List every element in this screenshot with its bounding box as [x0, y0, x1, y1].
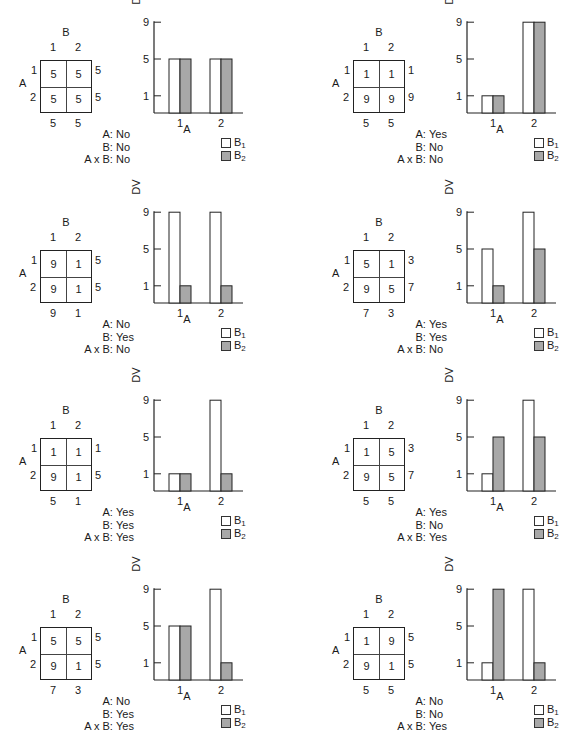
y-axis-label: DV [130, 556, 142, 571]
legend-label-b2: B2 [547, 527, 559, 541]
y-tick-label: 1 [143, 468, 149, 480]
legend-item-b1: B1 [221, 136, 246, 149]
x-tick-label: 2 [218, 307, 224, 319]
bar-a2-b1 [523, 589, 534, 680]
legend-item-b2: B2 [534, 716, 559, 729]
bar-a2-b2 [221, 663, 232, 680]
legend-label-b1: B1 [234, 514, 246, 528]
x-axis-label: A [183, 123, 190, 135]
bar-a1-b2 [493, 589, 504, 680]
legend-label-b2: B2 [234, 527, 246, 541]
x-axis-label: A [183, 690, 190, 702]
y-tick-label: 5 [456, 620, 462, 632]
y-tick-label: 5 [143, 431, 149, 443]
x-tick-label: 2 [531, 684, 537, 696]
bar-a1-b2 [180, 626, 191, 680]
legend-item-b1: B1 [534, 326, 559, 339]
legend-label-b1: B1 [547, 136, 559, 150]
y-axis-label: DV [130, 179, 142, 194]
x-tick-label: 2 [218, 684, 224, 696]
legend-item-b2: B2 [221, 527, 246, 540]
x-tick-label: 2 [218, 117, 224, 129]
y-axis-label: DV [130, 0, 142, 5]
x-tick-label: 2 [531, 307, 537, 319]
legend-item-b1: B1 [534, 514, 559, 527]
bar-a2-b2 [221, 474, 232, 491]
legend-item-b1: B1 [221, 326, 246, 339]
y-tick-label: 1 [143, 90, 149, 102]
x-tick-label: 1 [177, 307, 183, 319]
y-tick-label: 1 [456, 468, 462, 480]
y-tick-label: 9 [456, 206, 462, 218]
y-axis-label: DV [130, 367, 142, 382]
legend: B1 B2 [534, 326, 559, 352]
x-axis-label: A [496, 313, 503, 325]
legend-label-b1: B1 [234, 703, 246, 717]
y-tick-label: 9 [456, 16, 462, 28]
bar-a1-b1 [169, 626, 180, 680]
bar-a2-b1 [210, 400, 221, 491]
bar-a1-b1 [169, 474, 180, 491]
bar-chart: 15912 [0, 0, 293, 189]
x-axis-label: A [496, 501, 503, 513]
legend-item-b2: B2 [534, 527, 559, 540]
legend: B1 B2 [221, 136, 246, 162]
y-axis-label: DV [443, 179, 455, 194]
bar-a1-b2 [180, 59, 191, 113]
bar-a2-b2 [534, 22, 545, 113]
legend-swatch-b2 [534, 529, 544, 539]
y-tick-label: 5 [456, 53, 462, 65]
legend-swatch-b1 [534, 138, 544, 148]
y-axis-label: DV [443, 367, 455, 382]
bar-a2-b2 [221, 59, 232, 113]
legend: B1 B2 [221, 326, 246, 352]
legend-item-b1: B1 [534, 703, 559, 716]
legend-label-b1: B1 [234, 136, 246, 150]
x-tick-label: 1 [177, 684, 183, 696]
y-tick-label: 5 [456, 431, 462, 443]
legend-swatch-b2 [221, 151, 231, 161]
bar-a1-b1 [169, 59, 180, 113]
y-tick-label: 5 [456, 243, 462, 255]
bar-chart: 15912 [0, 190, 293, 379]
legend-swatch-b2 [221, 718, 231, 728]
legend-label-b2: B2 [547, 149, 559, 163]
x-tick-label: 2 [531, 495, 537, 507]
bar-a1-b2 [180, 286, 191, 303]
legend-item-b2: B2 [221, 716, 246, 729]
legend: B1 B2 [534, 514, 559, 540]
y-tick-label: 1 [456, 90, 462, 102]
legend-item-b2: B2 [221, 149, 246, 162]
legend-swatch-b2 [534, 718, 544, 728]
y-tick-label: 9 [456, 583, 462, 595]
bar-a2-b2 [221, 286, 232, 303]
y-tick-label: 1 [143, 657, 149, 669]
y-tick-label: 9 [143, 583, 149, 595]
legend-swatch-b2 [534, 341, 544, 351]
factorial-panel-7: B 1 2 A 1 2 5 5 9 1 5 5 7 3 A: No B: Yes… [0, 627, 293, 749]
x-tick-label: 1 [177, 495, 183, 507]
y-tick-label: 5 [143, 243, 149, 255]
bar-a1-b1 [482, 96, 493, 113]
bar-a1-b2 [493, 286, 504, 303]
x-axis-label: A [183, 501, 190, 513]
bar-a2-b1 [210, 589, 221, 680]
bar-a2-b2 [534, 437, 545, 491]
bar-chart: 15912 [0, 567, 293, 749]
legend-label-b2: B2 [234, 716, 246, 730]
legend-label-b1: B1 [547, 703, 559, 717]
bar-a2-b1 [523, 212, 534, 303]
x-tick-label: 1 [490, 307, 496, 319]
y-tick-label: 9 [143, 16, 149, 28]
bar-a1-b2 [493, 437, 504, 491]
legend: B1 B2 [221, 514, 246, 540]
bar-a1-b2 [493, 96, 504, 113]
legend-label-b2: B2 [234, 149, 246, 163]
legend-swatch-b1 [534, 705, 544, 715]
x-tick-label: 1 [490, 117, 496, 129]
x-axis-label: A [496, 123, 503, 135]
x-tick-label: 2 [531, 117, 537, 129]
y-tick-label: 1 [456, 657, 462, 669]
legend-label-b1: B1 [547, 326, 559, 340]
bar-a1-b1 [169, 212, 180, 303]
